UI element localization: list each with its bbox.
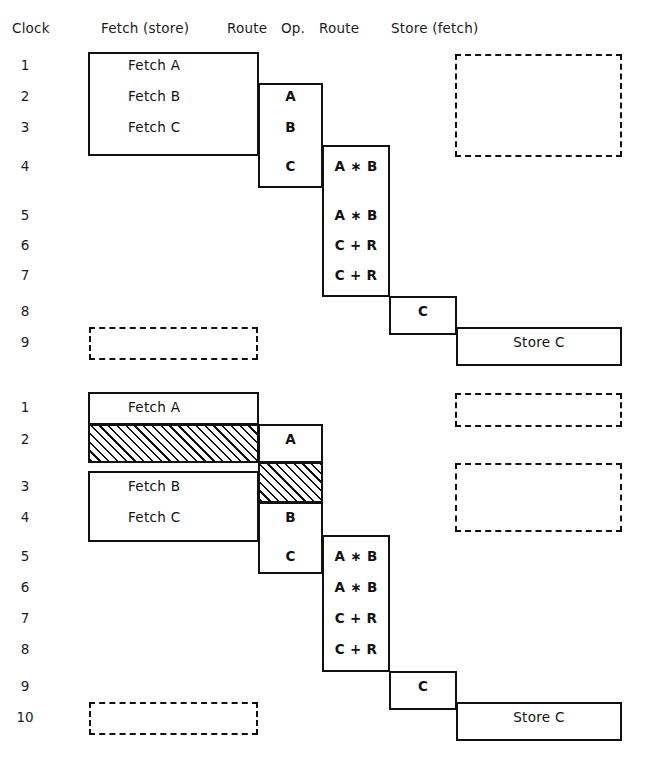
- cell-fetch-b: Fetch B: [128, 88, 228, 104]
- fetch-idle-box: [89, 327, 258, 360]
- column-header-op: Op.: [281, 20, 305, 36]
- store-idle-box: [455, 54, 622, 157]
- cell-fetch-b: Fetch B: [128, 478, 228, 494]
- cell-route2-c: C: [389, 303, 457, 319]
- clock-label-9: 9: [12, 678, 38, 694]
- column-header-route: Route: [319, 20, 359, 36]
- fetch-stall-hatch: [88, 424, 259, 463]
- store-idle-box-2: [455, 463, 622, 532]
- cell-op-add-2: C + R: [322, 641, 390, 657]
- route-stall-hatch: [258, 462, 323, 503]
- clock-label-1: 1: [12, 57, 38, 73]
- clock-label-3: 3: [12, 478, 38, 494]
- store-idle-box-1: [455, 393, 622, 427]
- pipeline-diagram-canvas: ClockFetch (store)RouteOp.RouteStore (fe…: [0, 0, 646, 760]
- clock-label-7: 7: [12, 610, 38, 626]
- column-header-store-fetch: Store (fetch): [391, 20, 478, 36]
- clock-label-6: 6: [12, 237, 38, 253]
- clock-label-4: 4: [12, 158, 38, 174]
- cell-op-add-2: C + R: [322, 267, 390, 283]
- fetch-idle-box: [89, 702, 258, 735]
- cell-route-a: A: [258, 88, 323, 104]
- cell-op-mul-2: A ∗ B: [322, 207, 390, 223]
- clock-label-2: 2: [12, 88, 38, 104]
- column-header-clock: Clock: [12, 20, 50, 36]
- clock-label-1: 1: [12, 399, 38, 415]
- clock-label-2: 2: [12, 431, 38, 447]
- cell-fetch-c: Fetch C: [128, 509, 228, 525]
- cell-op-mul-1: A ∗ B: [322, 548, 390, 564]
- cell-route-b: B: [258, 509, 323, 525]
- column-header-route: Route: [227, 20, 267, 36]
- cell-route2-c: C: [389, 678, 457, 694]
- clock-label-9: 9: [12, 334, 38, 350]
- cell-fetch-a: Fetch A: [128, 399, 228, 415]
- cell-op-mul-2: A ∗ B: [322, 579, 390, 595]
- cell-route-b: B: [258, 119, 323, 135]
- clock-label-5: 5: [12, 548, 38, 564]
- cell-route-c: C: [258, 158, 323, 174]
- clock-label-8: 8: [12, 641, 38, 657]
- clock-label-6: 6: [12, 579, 38, 595]
- clock-label-10: 10: [12, 709, 38, 725]
- clock-label-3: 3: [12, 119, 38, 135]
- clock-label-4: 4: [12, 509, 38, 525]
- cell-fetch-c: Fetch C: [128, 119, 228, 135]
- clock-label-5: 5: [12, 207, 38, 223]
- cell-op-mul-1: A ∗ B: [322, 158, 390, 174]
- column-header-fetch-store: Fetch (store): [101, 20, 189, 36]
- cell-store-c: Store C: [456, 709, 622, 725]
- cell-op-add-1: C + R: [322, 610, 390, 626]
- clock-label-8: 8: [12, 303, 38, 319]
- cell-store-c: Store C: [456, 334, 622, 350]
- cell-op-add-1: C + R: [322, 237, 390, 253]
- cell-route-a: A: [258, 431, 323, 447]
- cell-fetch-a: Fetch A: [128, 57, 228, 73]
- cell-route-c: C: [258, 548, 323, 564]
- clock-label-7: 7: [12, 267, 38, 283]
